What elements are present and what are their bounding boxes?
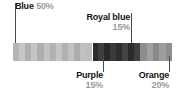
chart-canvas: Blue 50% Royal blue 15%: [0, 0, 185, 95]
callout-purple-label: Purple: [76, 70, 103, 80]
leader-line-royal-blue: [131, 13, 132, 43]
segment-orange: [140, 43, 172, 61]
segment-royal-blue: [116, 43, 140, 61]
segment-purple: [93, 43, 117, 61]
callout-purple-percent: 15%: [86, 80, 103, 90]
leader-line-purple: [103, 56, 104, 72]
callout-blue: Blue 50%: [15, 1, 54, 11]
leader-line-orange: [169, 56, 170, 72]
callout-orange: Orange 20%: [115, 70, 169, 90]
callout-orange-label: Orange: [139, 70, 169, 80]
segment-blue: [13, 43, 93, 61]
band: [86, 43, 92, 61]
callout-royal-blue: Royal blue 15%: [62, 12, 130, 32]
callout-blue-label: Blue: [15, 1, 34, 11]
callout-blue-percent: 50%: [36, 1, 53, 11]
callout-royal-blue-label: Royal blue: [86, 12, 130, 22]
stacked-bar-strip: [13, 43, 172, 61]
callout-orange-percent: 20%: [152, 80, 169, 90]
callout-royal-blue-percent: 15%: [113, 22, 130, 32]
callout-purple: Purple 15%: [52, 70, 103, 90]
leader-line-blue: [15, 3, 16, 43]
